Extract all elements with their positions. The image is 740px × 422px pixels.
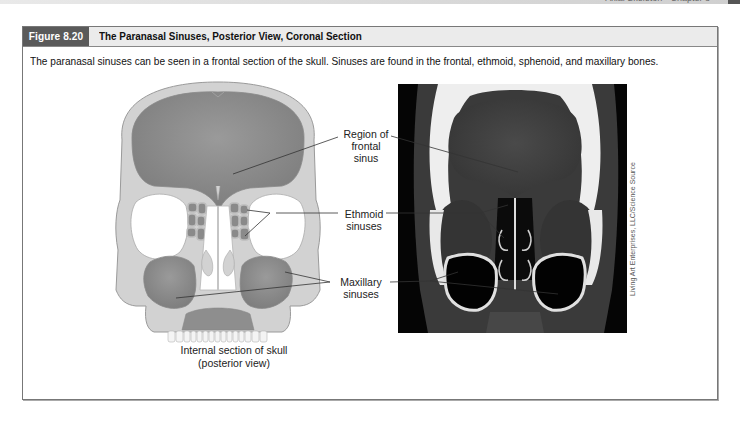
skull-drawing bbox=[116, 82, 320, 342]
photo-credit: Living Art Enterprises, LLC/Science Sour… bbox=[629, 162, 636, 296]
caption-line: (posterior view) bbox=[174, 357, 294, 370]
caption-line: Internal section of skull bbox=[174, 344, 294, 357]
label-text: sinuses bbox=[332, 288, 390, 300]
label-text: Region of bbox=[340, 128, 392, 140]
label-text: sinuses bbox=[340, 220, 388, 232]
label-maxillary-sinuses: Maxillary sinuses bbox=[332, 276, 390, 300]
label-frontal-sinus: Region of frontal sinus bbox=[340, 128, 392, 164]
label-text: Maxillary bbox=[332, 276, 390, 288]
label-text: frontal sinus bbox=[340, 140, 392, 164]
ct-scan-image bbox=[398, 84, 627, 333]
illustration-caption: Internal section of skull (posterior vie… bbox=[174, 344, 294, 370]
label-ethmoid-sinuses: Ethmoid sinuses bbox=[340, 208, 388, 232]
label-text: Ethmoid bbox=[340, 208, 388, 220]
